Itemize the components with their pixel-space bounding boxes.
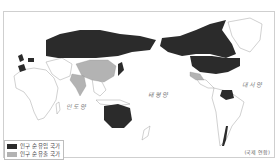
ocean-label-pacific: 태평양 bbox=[148, 90, 169, 99]
outflow-swatch bbox=[7, 152, 17, 157]
source-label: (국제 연합) bbox=[245, 148, 271, 155]
world-map bbox=[0, 0, 278, 160]
map-legend: 인구 순 유입 국가 인구 순 유출 국가 bbox=[4, 140, 64, 160]
legend-item-inflow: 인구 순 유입 국가 bbox=[7, 142, 60, 150]
africa bbox=[14, 68, 58, 120]
legend-label-inflow: 인구 순 유입 국가 bbox=[20, 142, 60, 150]
western-europe-uk bbox=[18, 54, 24, 62]
germany bbox=[28, 58, 34, 62]
united-states bbox=[190, 56, 240, 74]
canada-alaska bbox=[160, 20, 236, 58]
russia bbox=[46, 30, 156, 58]
legend-label-outflow: 인구 순 유출 국가 bbox=[20, 150, 60, 158]
inflow-swatch bbox=[7, 144, 17, 149]
mexico bbox=[190, 72, 204, 80]
legend-item-outflow: 인구 순 유출 국가 bbox=[7, 150, 60, 158]
madagascar bbox=[56, 102, 60, 114]
ocean-label-indian: 인도양 bbox=[66, 102, 87, 111]
japan bbox=[118, 62, 124, 76]
australia bbox=[104, 104, 132, 128]
ocean-label-atlantic: 대서양 bbox=[242, 80, 263, 89]
india bbox=[70, 74, 86, 96]
new-zealand bbox=[142, 126, 150, 140]
